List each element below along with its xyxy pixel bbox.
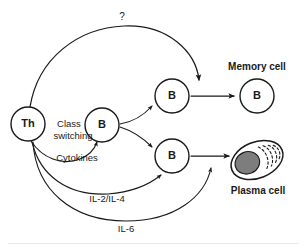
cell-plasma: [225, 133, 289, 187]
cytokines-label: Cytokines: [56, 153, 98, 163]
cell-b-lower-label: B: [168, 150, 176, 162]
plasma-cell-label: Plasma cell: [231, 186, 285, 197]
il6-label: IL-6: [118, 224, 134, 234]
il2-il4-label: IL-2/IL-4: [89, 194, 124, 204]
bottom-divider: [8, 243, 299, 244]
cell-memory-b-label: B: [253, 90, 261, 102]
memory-cell-label: Memory cell: [228, 62, 286, 73]
class-switching-label-line1: Class: [57, 119, 81, 129]
class-switching-label-line2: switching: [53, 131, 92, 141]
cell-b-activated-label: B: [98, 119, 106, 131]
arc-th-to-b-lower-il2il4: [32, 142, 161, 194]
question-mark-label: ?: [119, 12, 125, 23]
diagram-canvas: [0, 0, 307, 250]
cell-b-upper-label: B: [168, 90, 176, 102]
immunology-diagram: Th B B B B Memory cell Plasma cell ? Cla…: [0, 0, 307, 250]
arc-b-to-b-upper: [120, 106, 152, 124]
cell-th-label: Th: [21, 118, 34, 130]
arc-b-to-b-lower: [120, 127, 152, 147]
